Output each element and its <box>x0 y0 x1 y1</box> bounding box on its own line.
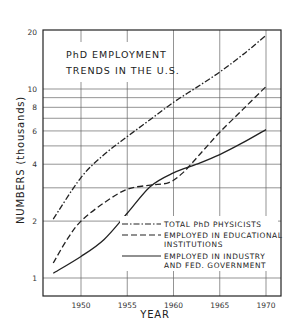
legend-label-total: TOTAL PhD PHYSICISTS <box>163 220 262 229</box>
legend-label-industry-1: EMPLOYED IN INDUSTRY <box>164 252 265 261</box>
y-tick-label: 6 <box>32 127 37 136</box>
y-tick-label: 20 <box>27 28 37 37</box>
y-tick-labels: 124681020 <box>27 28 37 283</box>
y-axis-label: NUMBERS (thousands) <box>15 96 26 224</box>
x-axis-label: YEAR <box>139 309 169 320</box>
y-tick-label: 8 <box>32 103 37 112</box>
chart: 124681020 19501955196019651970 PhD EMPLO… <box>0 0 297 327</box>
legend-label-industry-2: AND FED. GOVERNMENT <box>164 261 266 270</box>
legend-label-educational-1: EMPLOYED IN EDUCATIONAL <box>164 231 283 240</box>
x-tick-label: 1950 <box>71 301 90 310</box>
y-tick-label: 1 <box>32 274 37 283</box>
y-tick-label: 4 <box>32 160 37 169</box>
x-tick-label: 1955 <box>118 301 137 310</box>
title-line-1: PhD EMPLOYMENT <box>66 49 167 60</box>
x-tick-label: 1965 <box>210 301 229 310</box>
title-line-2: TRENDS IN THE U.S. <box>65 65 180 76</box>
chart-title: PhD EMPLOYMENT TRENDS IN THE U.S. <box>63 42 180 82</box>
legend: TOTAL PhD PHYSICISTS EMPLOYED IN EDUCATI… <box>120 216 283 271</box>
y-tick-label: 10 <box>27 85 37 94</box>
x-tick-labels: 19501955196019651970 <box>71 301 275 310</box>
legend-label-educational-2: INSTITUTIONS <box>164 240 223 249</box>
y-tick-label: 2 <box>32 217 37 226</box>
x-tick-label: 1970 <box>256 301 275 310</box>
